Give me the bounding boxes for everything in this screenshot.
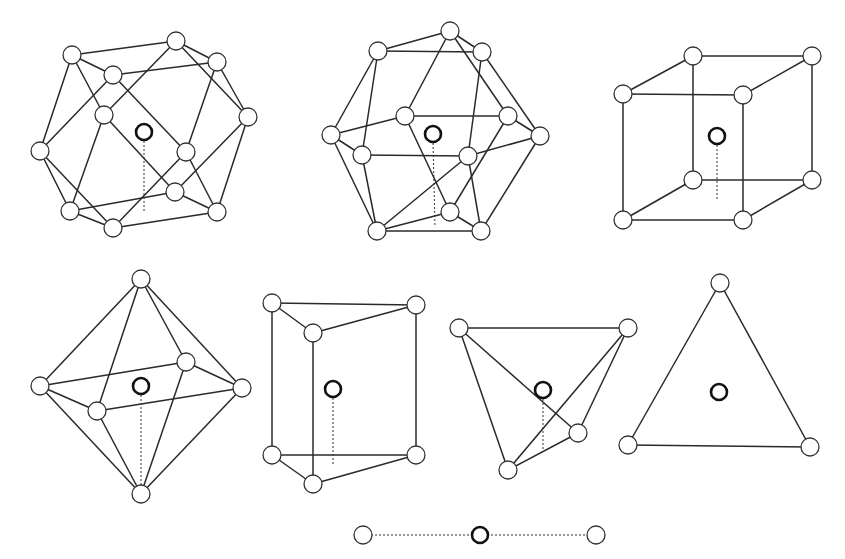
bond-edge xyxy=(141,388,242,494)
bond-edge xyxy=(217,117,248,212)
ligand-atom xyxy=(166,183,184,201)
bond-edge xyxy=(405,31,450,116)
linear-polyhedron xyxy=(354,526,605,544)
ligand-atom xyxy=(734,86,752,104)
central-atom xyxy=(711,384,727,400)
bond-edge xyxy=(176,41,248,117)
ligand-atom xyxy=(499,107,517,125)
bond-edge xyxy=(720,283,810,447)
ligand-atom xyxy=(233,379,251,397)
ligand-atom xyxy=(569,424,587,442)
ligand-atom xyxy=(369,42,387,60)
ligand-atom xyxy=(587,526,605,544)
ligand-atom xyxy=(208,53,226,71)
bond-edge xyxy=(313,305,416,333)
ligand-atom xyxy=(177,353,195,371)
bond-edge xyxy=(97,388,242,411)
ligand-atom xyxy=(734,211,752,229)
ligand-atom xyxy=(614,85,632,103)
ligand-atom xyxy=(396,107,414,125)
ligand-atom xyxy=(472,222,490,240)
bond-edge xyxy=(40,279,141,386)
ligand-atom xyxy=(354,526,372,544)
ligand-atom xyxy=(31,142,49,160)
ligand-atom xyxy=(132,270,150,288)
central-atom xyxy=(535,382,551,398)
bond-edge xyxy=(378,51,482,52)
bond-edge xyxy=(72,55,104,115)
cube-polyhedron xyxy=(614,47,821,229)
ligand-atom xyxy=(353,146,371,164)
ligand-atom xyxy=(304,475,322,493)
ligand-atom xyxy=(619,319,637,337)
ligand-atom xyxy=(263,446,281,464)
ligand-atom xyxy=(801,438,819,456)
bond-edge xyxy=(113,212,217,228)
tetrahedron-polyhedron xyxy=(450,319,637,479)
bond-edge xyxy=(40,151,70,211)
central-atom xyxy=(425,126,441,142)
cuboctahedron-polyhedron xyxy=(31,32,257,237)
ligand-atom xyxy=(263,294,281,312)
bond-edge xyxy=(141,279,242,388)
ligand-atom xyxy=(619,436,637,454)
octahedron-polyhedron xyxy=(31,270,251,503)
bond-edge xyxy=(468,156,481,231)
ligand-atom xyxy=(711,274,729,292)
ligand-atom xyxy=(450,319,468,337)
ligand-atom xyxy=(322,126,340,144)
ligand-atom xyxy=(531,127,549,145)
ligand-atom xyxy=(441,203,459,221)
ligand-atom xyxy=(407,446,425,464)
ligand-atom xyxy=(208,203,226,221)
bond-edge xyxy=(362,155,468,156)
ligand-atom xyxy=(441,22,459,40)
bond-edge xyxy=(508,328,628,470)
trigonal-prism-polyhedron xyxy=(263,294,425,493)
bond-edge xyxy=(40,386,141,494)
bond-edge xyxy=(362,155,377,231)
bond-edge xyxy=(628,283,720,445)
bond-edge xyxy=(113,75,186,152)
ligand-atom xyxy=(132,485,150,503)
bond-edge xyxy=(578,328,628,433)
bond-edge xyxy=(623,180,693,220)
central-atom xyxy=(133,378,149,394)
bond-edge xyxy=(72,41,176,55)
bond-edge xyxy=(313,455,416,484)
bond-edge xyxy=(743,180,812,220)
icosahedron-polyhedron xyxy=(322,22,549,240)
central-atom xyxy=(136,124,152,140)
ligand-atom xyxy=(104,219,122,237)
bond-edge xyxy=(628,445,810,447)
ligand-atom xyxy=(63,46,81,64)
bond-edge xyxy=(40,362,186,386)
ligand-atom xyxy=(104,66,122,84)
central-atom xyxy=(709,128,725,144)
coordination-polyhedra-diagram xyxy=(0,0,845,559)
ligand-atom xyxy=(614,211,632,229)
ligand-atom xyxy=(88,402,106,420)
ligand-atom xyxy=(368,222,386,240)
central-atom xyxy=(472,527,488,543)
bond-edge xyxy=(70,192,175,211)
bond-edge xyxy=(40,55,72,151)
bond-edge xyxy=(378,31,450,51)
bond-edge xyxy=(97,411,141,494)
bond-edge xyxy=(70,115,104,211)
central-atom xyxy=(325,381,341,397)
ligand-atom xyxy=(31,377,49,395)
ligand-atom xyxy=(407,296,425,314)
ligand-atom xyxy=(61,202,79,220)
ligand-atom xyxy=(177,143,195,161)
ligand-atom xyxy=(167,32,185,50)
bond-edge xyxy=(272,303,416,305)
ligand-atom xyxy=(803,47,821,65)
bond-edge xyxy=(743,56,812,95)
ligand-atom xyxy=(239,108,257,126)
ligand-atom xyxy=(803,171,821,189)
ligand-atom xyxy=(459,147,477,165)
bond-edge xyxy=(186,152,217,212)
ligand-atom xyxy=(684,47,702,65)
bond-edge xyxy=(623,56,693,94)
